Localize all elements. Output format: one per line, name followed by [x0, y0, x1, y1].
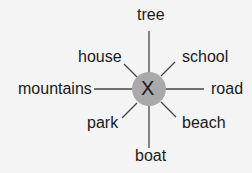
label-boat: boat [135, 148, 166, 164]
spoke-southeast [161, 102, 176, 117]
label-park: park [87, 115, 118, 131]
label-mountains: mountains [18, 81, 92, 97]
spoke-southwest [122, 103, 137, 118]
word-web-diagram: X tree school road beach boat park mount… [0, 0, 252, 173]
label-beach: beach [182, 115, 226, 131]
label-house: house [78, 49, 122, 65]
spoke-northwest [124, 64, 137, 77]
center-label: X [141, 78, 154, 98]
spoke-northeast [161, 62, 175, 76]
label-school: school [182, 49, 228, 65]
label-road: road [211, 81, 243, 97]
label-tree: tree [137, 7, 165, 23]
